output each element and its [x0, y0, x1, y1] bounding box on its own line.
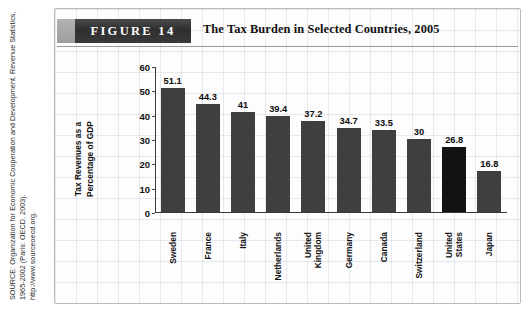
x-category-line: France: [202, 232, 213, 259]
y-tick-mark: [152, 164, 155, 165]
x-category-line: Germany: [343, 232, 354, 268]
bar[interactable]: [337, 128, 361, 212]
bar-value-label: 41: [238, 100, 248, 110]
y-tick-label: 10: [139, 183, 150, 194]
y-axis-title-line-1: Tax Revenues as a: [73, 89, 85, 229]
bar[interactable]: [372, 130, 396, 212]
figure-title: The Tax Burden in Selected Countries, 20…: [203, 22, 440, 37]
x-category-label: UnitedKingdom: [301, 228, 325, 308]
banner-accent-block: [57, 19, 75, 43]
figure-label-block: FIGURE 14: [75, 19, 191, 43]
x-category-label: Sweden: [161, 228, 185, 308]
y-tick-mark: [152, 67, 155, 68]
x-category-line: Kingdom: [313, 232, 323, 268]
x-category-label: Netherlands: [266, 228, 290, 308]
bar-value-label: 44.3: [199, 92, 217, 102]
bar[interactable]: [266, 116, 290, 212]
x-category-line: Sweden: [167, 232, 178, 264]
bar[interactable]: [442, 147, 466, 212]
x-category-label: Germany: [337, 228, 361, 308]
x-category-label: Italy: [231, 228, 255, 308]
y-tick-mark: [152, 116, 155, 117]
y-tick-mark: [152, 213, 155, 214]
x-category-label: Japan: [477, 228, 501, 308]
bar-value-label: 34.7: [340, 116, 358, 126]
y-tick-mark: [152, 91, 155, 92]
x-category-label: France: [196, 228, 220, 308]
bar-value-label: 33.5: [375, 118, 393, 128]
y-tick-mark: [152, 189, 155, 190]
bar[interactable]: [231, 112, 255, 212]
y-tick-label: 50: [139, 86, 150, 97]
y-tick-label: 20: [139, 159, 150, 170]
y-axis-title-line-2: Percentage of GDP: [85, 89, 97, 229]
bar[interactable]: [407, 139, 431, 212]
x-category-label: Switzerland: [407, 228, 431, 308]
y-tick-label: 40: [139, 110, 150, 121]
bar-value-label: 16.8: [480, 159, 498, 169]
x-category-line: Italy: [238, 232, 249, 249]
source-note: SOURCE: Organization for Economic Cooper…: [8, 0, 54, 300]
y-tick-label: 30: [139, 135, 150, 146]
plot-area: 0102030405060 51.144.34139.437.234.733.5…: [155, 67, 507, 213]
figure-number-label: FIGURE 14: [91, 24, 176, 39]
bar[interactable]: [161, 88, 185, 212]
y-tick-mark: [152, 140, 155, 141]
bar[interactable]: [477, 171, 501, 212]
x-category-line: States: [454, 232, 464, 257]
x-axis-line: [155, 212, 507, 213]
bar-value-label: 39.4: [269, 104, 287, 114]
y-axis-title: Tax Revenues as a Percentage of GDP: [73, 89, 99, 229]
y-axis-line: [155, 67, 156, 213]
x-category-line: Switzerland: [414, 232, 425, 279]
figure-panel: FIGURE 14 The Tax Burden in Selected Cou…: [54, 8, 521, 304]
figure-container: SOURCE: Organization for Economic Cooper…: [0, 0, 529, 312]
bar-chart: Tax Revenues as a Percentage of GDP 0102…: [55, 53, 522, 299]
y-tick-label: 60: [139, 62, 150, 73]
x-category-line: Netherlands: [273, 232, 284, 280]
bar-value-label: 37.2: [304, 109, 322, 119]
x-category-label: UnitedStates: [442, 228, 466, 308]
bar[interactable]: [196, 104, 220, 212]
bar-value-label: 26.8: [445, 135, 463, 145]
x-category-line: Canada: [378, 232, 389, 262]
bar-value-label: 51.1: [164, 76, 182, 86]
bar-value-label: 30: [414, 127, 424, 137]
figure-banner: FIGURE 14 The Tax Burden in Selected Cou…: [55, 19, 522, 43]
y-tick-label: 0: [145, 208, 150, 219]
bar[interactable]: [301, 121, 325, 212]
x-category-line: Japan: [484, 232, 495, 256]
banner-divider: [57, 46, 518, 47]
x-category-label: Canada: [372, 228, 396, 308]
